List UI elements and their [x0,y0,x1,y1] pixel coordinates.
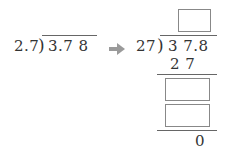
right-dividend: 3 7.8 [168,38,209,54]
left-divisor: 2.7 [14,38,39,54]
subtraction-line [157,74,217,75]
right-divisor: 27 [136,38,156,54]
intermediate-answer-box-2[interactable] [165,104,210,127]
subtraction-line [157,130,217,131]
right-arrow-icon [109,40,125,52]
vinculum-line [42,35,97,36]
quotient-answer-box[interactable] [178,9,211,32]
vinculum-line [160,35,217,36]
division-bracket: ) [38,36,45,54]
left-dividend: 3.7 8 [48,38,89,54]
intermediate-answer-box-1[interactable] [165,78,210,101]
first-product: 2 7 [170,56,195,72]
division-bracket: ) [157,36,164,54]
remainder: 0 [195,133,205,149]
